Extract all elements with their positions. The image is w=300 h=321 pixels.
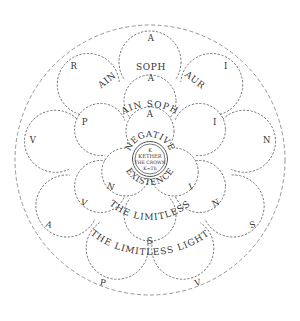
kether-crown-disc: K KETHER THE CROWN K=Th — [133, 142, 168, 177]
outer-letter: N — [263, 135, 271, 145]
outer-letter: V — [29, 135, 37, 145]
inner-letter: A — [146, 109, 154, 119]
ain-soph-aur-veils-diagram: K KETHER THE CROWN K=Th A I N S V P A V … — [0, 0, 300, 321]
outer-letter: A — [147, 33, 155, 43]
soph-word: SOPH — [136, 62, 166, 72]
outer-letter: I — [224, 61, 228, 71]
middle-letter: A — [147, 73, 155, 83]
outer-letter: R — [71, 61, 78, 71]
middle-letter: S — [147, 236, 153, 246]
kether-transliteration: K=Th — [143, 166, 156, 171]
middle-letter: I — [213, 117, 217, 127]
kether-label: KETHER — [138, 153, 162, 159]
middle-letter: P — [82, 117, 88, 127]
the-crown-label: THE CROWN — [134, 160, 165, 165]
